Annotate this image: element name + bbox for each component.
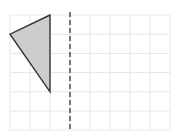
reflection-diagram [0, 0, 175, 139]
